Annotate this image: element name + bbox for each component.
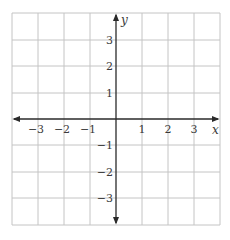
x-tick-label: 3	[191, 123, 198, 136]
x-tick-label: −1	[80, 123, 96, 136]
y-tick-label: 1	[106, 87, 113, 100]
y-axis-label: y	[120, 13, 128, 27]
y-tick-label: 2	[106, 60, 113, 73]
x-tick-label: −3	[28, 123, 44, 136]
y-tick-label: −3	[97, 192, 113, 205]
x-tick-label: 1	[139, 123, 146, 136]
coordinate-plane: x y −3 −2 −1 1 2 3 3 2 1 −1 −2 −3	[0, 0, 230, 240]
x-tick-label: 2	[165, 123, 172, 136]
y-tick-label: −1	[97, 139, 113, 152]
x-axis-label: x	[212, 123, 219, 137]
x-tick-label: −2	[54, 123, 70, 136]
y-tick-label: −2	[97, 166, 113, 179]
y-tick-label: 3	[106, 34, 113, 47]
x-tick-labels: −3 −2 −1 1 2 3	[28, 123, 198, 136]
